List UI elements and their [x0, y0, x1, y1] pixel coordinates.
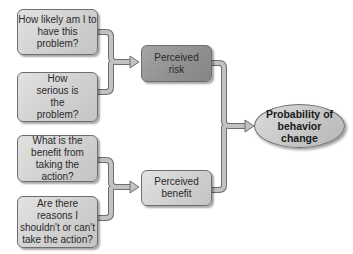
question-box-likelihood: How likely am I to have this problem?: [17, 9, 98, 55]
question-box-severity: How serious is the problem?: [17, 72, 98, 122]
question-text: What is the benefit from taking the acti…: [20, 135, 95, 183]
outcome-ellipse: Probability of behavior change: [254, 104, 345, 148]
question-text: How likely am I to have this problem?: [18, 14, 97, 50]
question-text: How serious is the problem?: [32, 73, 83, 121]
factor-box-perceived-risk: Perceived risk: [141, 45, 212, 82]
arrow-head-risk: [130, 56, 139, 68]
factor-text: Perceived benefit: [154, 176, 199, 200]
outcome-text: Probability of behavior change: [261, 108, 338, 144]
question-box-benefit: What is the benefit from taking the acti…: [17, 135, 98, 182]
arrow-head-benefit: [130, 181, 139, 193]
factor-box-perceived-benefit: Perceived benefit: [141, 170, 212, 206]
question-box-barriers: Are there reasons I shouldn't or can't t…: [17, 196, 98, 248]
factor-text: Perceived risk: [154, 52, 199, 76]
question-text: Are there reasons I shouldn't or can't t…: [20, 198, 95, 246]
arrow-head-outcome: [245, 120, 254, 132]
